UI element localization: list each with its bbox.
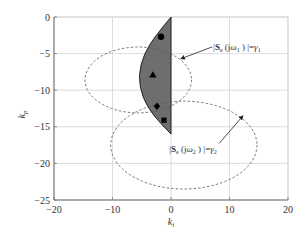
annotation-arrow-2 — [219, 116, 243, 144]
x-tick-label: 0 — [169, 204, 174, 215]
x-axis-label: ki — [168, 216, 174, 229]
y-tick-label: −25 — [34, 195, 50, 206]
y-tick-label: −20 — [34, 158, 50, 169]
annotation-label-1: |Se (jω1 ) |=γ1 — [213, 42, 261, 53]
y-tick-label: 0 — [45, 12, 50, 23]
annotation-arrow-1 — [181, 47, 212, 59]
annotations: |Se (jω1 ) |=γ1|Se (jω2 ) |=γ2 — [169, 42, 260, 155]
ellipse-gamma-1 — [85, 47, 191, 113]
marker-square — [161, 118, 166, 123]
x-tick-label: 10 — [225, 204, 235, 215]
y-tick-label: −10 — [34, 85, 50, 96]
y-tick-label: −15 — [34, 121, 50, 132]
x-tick-label: −10 — [105, 204, 121, 215]
x-tick-label: 20 — [283, 204, 293, 215]
marker-circle — [158, 34, 164, 40]
y-axis-label: kp — [16, 110, 29, 118]
chart: −20−10010200−5−10−15−20−25 kikp |Se (jω1… — [0, 0, 307, 240]
y-tick-label: −5 — [39, 48, 50, 59]
annotation-label-2: |Se (jω2 ) |=γ2 — [169, 144, 217, 155]
x-tick-label: −20 — [46, 204, 62, 215]
